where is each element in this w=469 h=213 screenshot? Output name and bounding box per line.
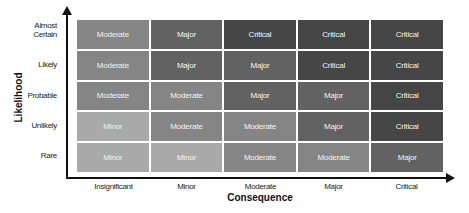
consequence-axis-line bbox=[66, 177, 448, 179]
matrix-cell: Moderate bbox=[224, 143, 296, 172]
likelihood-axis-line bbox=[66, 12, 68, 178]
matrix-cell: Major bbox=[224, 82, 296, 111]
col-label-insignificant: Insignificant bbox=[77, 182, 150, 191]
matrix-cell: Moderate bbox=[77, 82, 149, 111]
likelihood-axis-arrow-icon bbox=[62, 6, 72, 15]
row-label-probable: Probable bbox=[7, 91, 57, 100]
matrix-cell: Moderate bbox=[77, 51, 149, 80]
consequence-axis-arrow-icon bbox=[446, 173, 455, 183]
matrix-cell: Major bbox=[151, 51, 223, 80]
col-label-moderate: Moderate bbox=[224, 182, 297, 191]
matrix-cell: Critical bbox=[224, 20, 296, 49]
matrix-cell: Moderate bbox=[151, 112, 223, 141]
matrix-cell: Minor bbox=[77, 143, 149, 172]
col-label-critical: Critical bbox=[370, 182, 443, 191]
matrix-cell: Moderate bbox=[151, 82, 223, 111]
col-label-major: Major bbox=[297, 182, 370, 191]
matrix-cell: Critical bbox=[371, 112, 443, 141]
matrix-cell: Critical bbox=[371, 51, 443, 80]
matrix-cell: Moderate bbox=[77, 20, 149, 49]
matrix-cell: Critical bbox=[371, 20, 443, 49]
col-label-minor: Minor bbox=[150, 182, 223, 191]
matrix-cell: Major bbox=[151, 20, 223, 49]
matrix-cell: Critical bbox=[371, 82, 443, 111]
matrix-cell: Major bbox=[371, 143, 443, 172]
row-label-rare: Rare bbox=[7, 151, 57, 160]
matrix-cell: Major bbox=[298, 112, 370, 141]
matrix-cell: Moderate bbox=[224, 112, 296, 141]
matrix-cell: Major bbox=[224, 51, 296, 80]
row-label-almost-certain: Almost Certain bbox=[23, 21, 57, 39]
risk-matrix-grid: Moderate Major Critical Critical Critica… bbox=[77, 20, 443, 172]
matrix-cell: Critical bbox=[298, 51, 370, 80]
row-label-unlikely: Unlikely bbox=[7, 121, 57, 130]
x-axis-title: Consequence bbox=[200, 192, 320, 203]
matrix-cell: Critical bbox=[298, 20, 370, 49]
matrix-cell: Minor bbox=[77, 112, 149, 141]
matrix-cell: Major bbox=[298, 82, 370, 111]
row-label-likely: Likely bbox=[7, 60, 57, 69]
matrix-cell: Minor bbox=[151, 143, 223, 172]
matrix-cell: Moderate bbox=[298, 143, 370, 172]
